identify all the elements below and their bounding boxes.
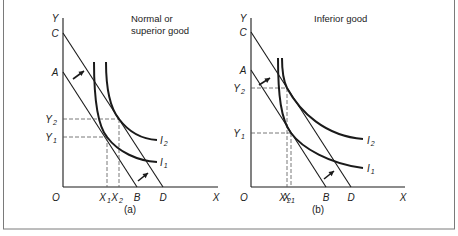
origin-label: O (240, 192, 248, 203)
figure-border (4, 0, 455, 229)
panel-caption: (a) (124, 204, 136, 215)
shift-arrow-lower (138, 173, 148, 181)
tick-label-X2: X2 (110, 192, 123, 204)
panel-caption: (b) (312, 204, 324, 215)
point-B-label: B (134, 192, 141, 203)
panel-title-line: superior good (131, 25, 189, 36)
panel-title-line: Inferior good (314, 13, 367, 24)
indifference-curve-I1 (94, 62, 157, 162)
shift-arrow-upper (259, 78, 270, 85)
tick-label-Y2: Y2 (45, 114, 57, 126)
figure: YXOACBDY1X1Y2X2I1I2Normal orsuperior goo… (0, 0, 458, 236)
point-C-label: C (51, 28, 59, 39)
indifference-curve-I2 (106, 62, 157, 140)
point-A-label: A (51, 67, 59, 78)
tick-label-Y1: Y1 (233, 128, 245, 140)
origin-label: O (52, 192, 60, 203)
curve-label-I1: I1 (160, 157, 168, 169)
curve-label-I2: I2 (367, 135, 375, 147)
shift-arrow-lower (324, 171, 334, 179)
shift-arrow-upper (73, 71, 84, 79)
tick-label-Y1: Y1 (45, 132, 57, 144)
curve-label-I2: I2 (160, 135, 168, 147)
y-axis-label: Y (52, 13, 60, 24)
panel-b-inferior-good: YXOACBDY1X1Y2X2I1I2Inferior good(b) (233, 13, 406, 215)
indifference-curve-diagram: YXOACBDY1X1Y2X2I1I2Normal orsuperior goo… (0, 0, 458, 236)
panel-a-normal-good: YXOACBDY1X1Y2X2I1I2Normal orsuperior goo… (45, 13, 219, 215)
curve-label-I1: I1 (367, 163, 375, 175)
point-D-label: D (347, 192, 354, 203)
point-A-label: A (239, 65, 247, 76)
indifference-curve-I2 (282, 58, 363, 139)
point-D-label: D (159, 192, 166, 203)
y-axis-label: Y (240, 13, 248, 24)
x-axis-label: X (212, 192, 220, 203)
tick-label-Y2: Y2 (233, 83, 245, 95)
point-C-label: C (239, 27, 247, 38)
x-axis-label: X (399, 192, 407, 203)
panel-title-line: Normal or (131, 13, 173, 24)
point-B-label: B (323, 192, 330, 203)
tick-label-X1: X1 (98, 192, 111, 204)
